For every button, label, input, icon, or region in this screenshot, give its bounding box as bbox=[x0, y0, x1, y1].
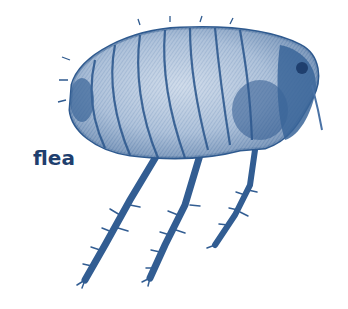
body bbox=[58, 16, 322, 158]
flea-figure: flea bbox=[0, 0, 348, 309]
figure-label: flea bbox=[33, 146, 75, 170]
legs bbox=[77, 150, 257, 288]
